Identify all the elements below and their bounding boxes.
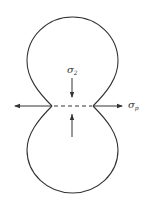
stress-lobe-diagram	[0, 0, 148, 208]
sigma2-label: σ2	[67, 65, 78, 76]
sigma2-down-arrow-icon	[70, 92, 74, 98]
sigma2-symbol: σ	[67, 64, 74, 75]
sigma2-up-arrow-icon	[70, 114, 74, 120]
sigma2-subscript: 2	[74, 69, 78, 76]
sigmap-label: σp	[128, 100, 139, 111]
sigmap-subscript: p	[135, 104, 139, 111]
sigmap-symbol: σ	[128, 99, 135, 110]
